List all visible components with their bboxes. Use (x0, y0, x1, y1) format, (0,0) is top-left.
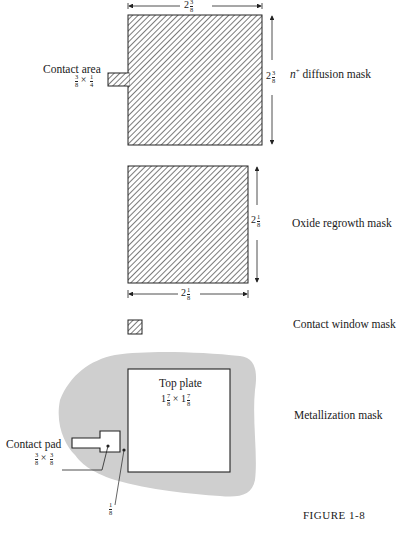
n-diffusion-width-dim: 238 (184, 0, 193, 13)
top-plate-dims: 178 × 178 (161, 393, 190, 407)
figure-drawing (0, 0, 398, 534)
contact-pad-dims: 38 × 38 (34, 452, 53, 466)
metallization-mask-label: Metallization mask (294, 409, 382, 421)
oxide-regrowth-height-dim: 218 (251, 214, 260, 228)
n-diffusion-height-dim: 238 (266, 70, 275, 84)
contact-area-dims: 38 × 14 (74, 74, 93, 88)
oxide-regrowth-mask-label: Oxide regrowth mask (292, 217, 392, 229)
gap-dim: 18 (108, 502, 112, 516)
oxide-regrowth-mask (128, 166, 257, 298)
n-diffusion-mask (108, 3, 272, 145)
figure-caption: FIGURE 1-8 (303, 509, 365, 521)
metallization-mask (59, 352, 256, 505)
oxide-regrowth-width-dim: 218 (181, 287, 190, 301)
contact-pad-label: Contact pad (6, 438, 61, 450)
contact-window-mask (128, 320, 142, 334)
contact-window-mask-label: Contact window mask (293, 318, 396, 330)
n-diffusion-mask-label: n+ diffusion mask (290, 67, 371, 80)
top-plate-label: Top plate (159, 377, 202, 389)
